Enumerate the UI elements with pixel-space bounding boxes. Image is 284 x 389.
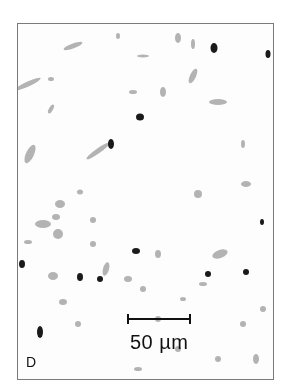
panel-label: D <box>26 354 36 370</box>
micrograph-panel: 50 µm D <box>17 23 274 380</box>
tissue-image <box>18 24 273 379</box>
scale-bar-label: 50 µm <box>130 331 189 354</box>
scale-bar-right-tick <box>189 314 191 324</box>
scale-bar-line <box>127 318 191 320</box>
scale-bar <box>127 314 191 324</box>
